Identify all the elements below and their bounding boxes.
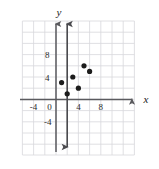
y-tick-label-4: 4	[45, 73, 50, 83]
y-tick-label-8: 8	[45, 50, 50, 60]
coordinate-plane-svg: x y -4 4 8 0 8 4 -4	[0, 0, 159, 169]
origin-label: 0	[47, 102, 52, 112]
x-tick-label-4: 4	[76, 102, 81, 112]
x-tick-label-neg4: -4	[30, 102, 38, 112]
figure-background	[0, 0, 159, 169]
data-point	[59, 80, 64, 85]
data-point	[70, 74, 75, 79]
data-point	[65, 91, 70, 96]
data-point	[87, 69, 92, 74]
y-axis-label: y	[56, 6, 62, 18]
x-tick-label-8: 8	[99, 102, 104, 112]
data-point	[76, 86, 81, 91]
x-axis-label: x	[143, 93, 149, 105]
y-tick-label-neg4: -4	[44, 117, 52, 127]
data-point	[81, 63, 86, 68]
coordinate-plane-figure: x y -4 4 8 0 8 4 -4	[0, 0, 159, 169]
